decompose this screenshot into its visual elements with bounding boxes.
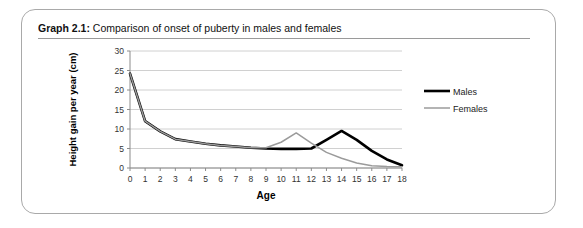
x-tick-label: 8 [249,174,254,184]
legend-label-females: Females [453,104,488,114]
chart-plot: 051015202530 012345678910111213141516171… [56,44,526,204]
caption-label: Graph 2.1: [38,22,90,34]
x-tick-label: 18 [397,174,407,184]
x-tick-label: 12 [307,174,317,184]
y-tick-label: 15 [115,105,125,115]
x-tick-label: 10 [276,174,286,184]
x-tick-label: 7 [233,174,238,184]
chart-svg: 051015202530 012345678910111213141516171… [56,44,526,204]
figure-container: Graph 2.1: Comparison of onset of pubert… [21,9,556,214]
caption-text: Comparison of onset of puberty in males … [90,22,342,34]
y-tick-labels: 051015202530 [115,46,125,173]
x-tick-label: 2 [158,174,163,184]
y-tick-label: 30 [115,46,125,56]
x-tick-labels: 0123456789101112131415161718 [128,174,407,184]
y-tick-label: 10 [115,124,125,134]
y-tick-label: 5 [119,144,124,154]
x-tick-label: 11 [292,174,301,184]
y-axis-title: Height gain per year (cm) [67,52,78,166]
x-tick-label: 13 [322,174,332,184]
x-tick-label: 5 [203,174,208,184]
x-tick-label: 3 [173,174,178,184]
x-tick-label: 0 [128,174,133,184]
x-tick-label: 1 [143,174,148,184]
x-tick-label: 9 [264,174,269,184]
x-tick-label: 17 [382,174,392,184]
x-tick-label: 6 [218,174,223,184]
series-line-females [130,74,402,167]
x-tick-label: 15 [352,174,362,184]
y-tick-label: 20 [115,85,125,95]
data-series-group [130,74,402,167]
legend-label-males: Males [453,87,478,97]
chart-legend: MalesFemales [424,87,488,114]
figure-caption: Graph 2.1: Comparison of onset of pubert… [38,18,530,39]
y-tick-label: 0 [119,163,124,173]
x-tick-label: 4 [188,174,193,184]
y-tick-label: 25 [115,66,125,76]
x-tick-label: 14 [337,174,347,184]
grid-lines [130,51,402,168]
series-line-males [130,74,402,166]
x-tick-label: 16 [367,174,377,184]
x-axis-title: Age [257,190,276,201]
